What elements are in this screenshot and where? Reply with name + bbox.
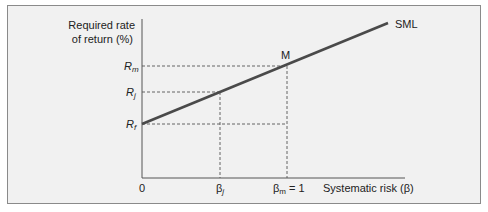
origin-label: 0 (139, 182, 145, 194)
reference-lines (142, 66, 287, 178)
sml-chart: Required rate of return (%) Rm Rj Rf 0 β… (0, 0, 488, 212)
bj-label: βj (216, 182, 224, 196)
sml-line (142, 23, 388, 124)
y-axis-title-line2: of return (%) (72, 33, 133, 45)
rm-label: Rm (124, 60, 139, 74)
bm-label: βm = 1 (273, 182, 305, 196)
rf-label: Rf (126, 118, 137, 132)
sml-label: SML (395, 18, 418, 30)
x-axis-title: Systematic risk (β) (323, 182, 414, 194)
y-axis-title-line1: Required rate (68, 19, 135, 31)
rj-label: Rj (126, 86, 136, 100)
market-point-label: M (281, 49, 290, 61)
